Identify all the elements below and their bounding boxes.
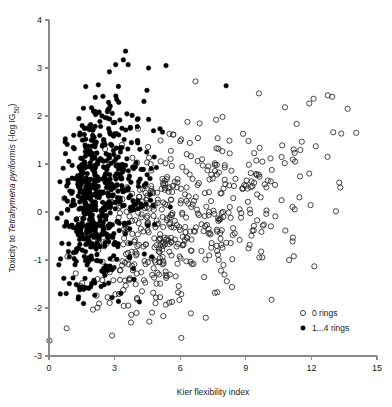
data-point-open [187,140,192,145]
data-point-filled [58,257,63,262]
data-point-open [203,315,208,320]
data-point-open [159,207,164,212]
data-point-filled [148,198,153,203]
data-point-open [151,213,156,218]
data-point-filled [71,276,76,281]
data-point-open [246,162,251,167]
data-point-filled [106,100,111,105]
data-point-filled [110,111,115,116]
data-point-filled [121,189,126,194]
data-point-filled [101,190,106,195]
data-point-open [122,278,127,283]
x-tick-label-2: 6 [178,363,183,373]
y-tick-label-5: 2 [37,111,42,121]
data-point-filled [86,256,91,261]
data-point-open [268,156,273,161]
data-point-open [268,179,273,184]
data-point-filled [84,181,89,186]
data-point-filled [113,94,118,99]
data-point-filled [63,151,68,156]
x-tick-label-0: 0 [46,363,51,373]
data-point-filled [117,228,122,233]
data-point-filled [92,293,97,298]
data-point-open [213,117,218,122]
data-point-filled [123,232,128,237]
data-point-open [202,274,207,279]
data-point-filled [114,131,119,136]
data-point-open [308,203,313,208]
data-point-filled [106,281,111,286]
data-point-open [199,157,204,162]
data-point-open [185,119,190,124]
data-point-filled [80,123,85,128]
data-point-open [117,277,122,282]
data-point-open [256,91,261,96]
data-point-open [167,131,172,136]
data-point-filled [85,194,90,199]
data-point-filled [88,122,93,127]
data-point-open [230,257,235,262]
data-point-open [269,167,274,172]
data-point-open [227,138,232,143]
data-point-filled [116,100,121,105]
data-point-filled [90,241,95,246]
data-point-filled [66,159,71,164]
data-point-filled [90,156,95,161]
data-point-filled [119,176,124,181]
data-point-filled [114,171,119,176]
data-point-open [294,121,299,126]
data-point-filled [97,133,102,138]
y-axis-title-tail: ) [7,103,17,106]
data-point-filled [123,49,128,54]
data-point-filled [117,118,122,123]
data-point-open [273,214,278,219]
data-point-filled [135,124,140,129]
data-point-open [299,139,304,144]
data-point-filled [126,62,131,67]
data-point-filled [224,83,229,88]
data-point-filled [73,262,78,267]
data-point-filled [76,294,81,299]
data-point-filled [108,142,113,147]
y-axis-title-species: Tetrahymena pyriformis [7,143,17,232]
data-point-filled [91,233,96,238]
data-point-filled [81,237,86,242]
data-point-open [333,209,338,214]
data-point-filled [56,262,61,267]
data-points-layer [47,49,359,343]
data-point-filled [58,292,63,297]
data-point-open [259,229,264,234]
data-point-filled [108,256,113,261]
data-point-filled [79,206,84,211]
data-point-filled [136,116,141,121]
data-point-filled [134,202,139,207]
data-point-filled [93,163,98,168]
data-point-open [146,144,151,149]
data-point-open [248,170,253,175]
data-point-open [135,244,140,249]
data-point-open [264,211,269,216]
data-point-filled [117,200,122,205]
data-point-open [339,131,344,136]
x-axis-title: Kier flexibility index [177,387,250,397]
data-point-filled [83,154,88,159]
data-point-open [325,154,330,159]
data-point-filled [93,144,98,149]
data-point-open [171,132,176,137]
data-point-open [149,310,154,315]
data-point-open [247,242,252,247]
data-point-filled [70,223,75,228]
data-point-open [272,182,277,187]
data-point-open [178,139,183,144]
data-point-open [220,114,225,119]
data-point-filled [64,184,69,189]
data-point-open [183,215,188,220]
data-point-filled [112,242,117,247]
data-point-open [240,131,245,136]
data-point-filled [137,300,142,305]
data-point-open [130,155,135,160]
data-point-filled [88,212,93,217]
data-point-filled [119,291,124,296]
data-point-open [245,199,250,204]
data-point-filled [88,267,93,272]
